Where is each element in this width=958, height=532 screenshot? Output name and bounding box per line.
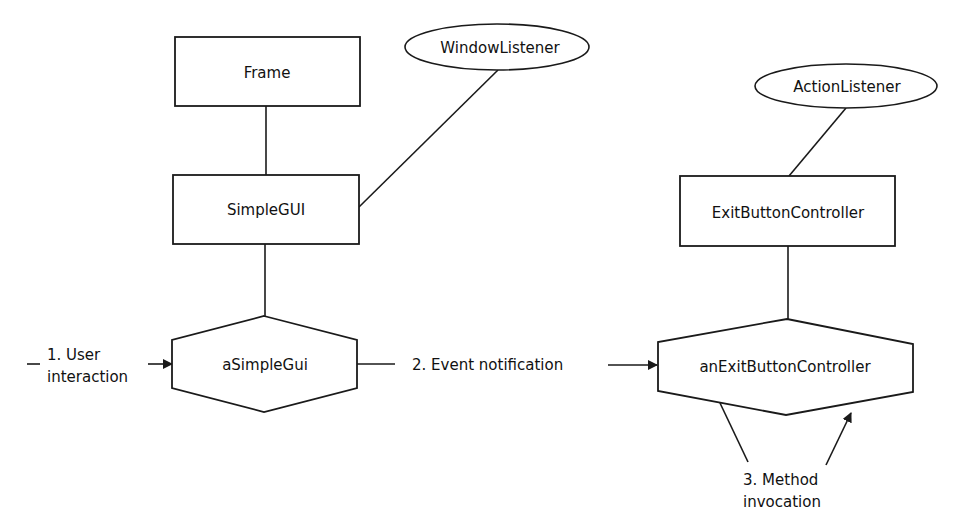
actionlistener-controller-link [789,108,846,176]
step-3-line1: 3. Method [743,471,818,489]
step-1-label: 1. User interaction [47,346,128,386]
object-asimplegui-label: aSimpleGui [222,356,308,374]
method-invocation-line [720,403,748,462]
interface-windowlistener: WindowListener [405,24,589,70]
method-invocation-arrow [826,413,851,465]
object-anexitbuttoncontroller: anExitButtonController [658,319,913,415]
object-asimplegui: aSimpleGui [172,316,357,412]
class-simplegui: SimpleGUI [173,175,359,244]
class-simplegui-label: SimpleGUI [227,201,305,219]
step-2-label: 2. Event notification [412,356,563,374]
step-1-line2: interaction [47,368,128,386]
interface-windowlistener-label: WindowListener [440,39,560,57]
step-3-line2: invocation [743,493,821,511]
class-frame: Frame [175,37,360,106]
class-exitbuttoncontroller: ExitButtonController [680,176,895,246]
diagram-canvas: Frame SimpleGUI WindowListener ActionLis… [0,0,958,532]
object-anexitbuttoncontroller-label: anExitButtonController [699,358,871,376]
step-3-label: 3. Method invocation [743,471,821,511]
class-frame-label: Frame [244,64,291,82]
step-2-line1: 2. Event notification [412,356,563,374]
interface-actionlistener: ActionListener [755,64,937,108]
simplegui-windowlistener-link [359,70,498,207]
class-exitbuttoncontroller-label: ExitButtonController [712,204,865,222]
step-1-line1: 1. User [47,346,101,364]
interface-actionlistener-label: ActionListener [793,78,901,96]
